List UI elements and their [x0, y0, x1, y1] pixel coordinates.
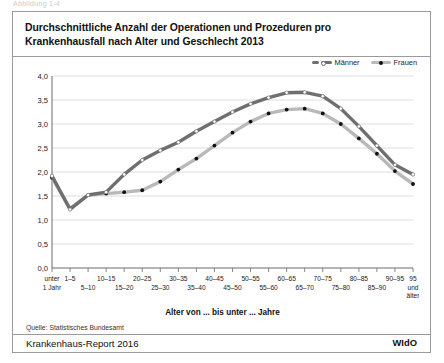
x-axis-tick-label: 90–95 — [386, 275, 405, 282]
plot-area: 0,00,51,01,52,02,53,03,54,0unter1 Jahr1–… — [25, 70, 419, 304]
data-point-frauen — [231, 131, 235, 135]
data-point-frauen — [411, 182, 415, 186]
y-axis-tick-label: 3,5 — [37, 96, 48, 105]
data-point-frauen — [357, 137, 361, 141]
data-point-männer — [50, 174, 53, 177]
y-axis-tick-label: 3,0 — [37, 120, 48, 129]
legend-swatch-maenner-icon — [312, 60, 332, 66]
x-axis-tick-label: 50–55 — [241, 275, 260, 282]
data-point-männer — [104, 190, 107, 193]
data-point-männer — [393, 163, 396, 166]
data-point-frauen — [393, 169, 397, 173]
data-point-frauen — [375, 152, 379, 156]
y-axis-tick-label: 2,0 — [37, 168, 48, 177]
data-point-frauen — [195, 157, 199, 161]
data-point-männer — [339, 107, 342, 110]
x-axis-tick-label: 20–25 — [133, 275, 152, 282]
data-point-frauen — [158, 180, 162, 184]
x-axis-tick-label: 65–70 — [296, 284, 315, 291]
x-axis-tick-label: 30–35 — [169, 275, 188, 282]
footer-divider — [13, 334, 430, 335]
x-axis-tick-label: 95 — [409, 275, 417, 282]
data-point-frauen — [249, 120, 253, 124]
y-axis-tick-label: 1,0 — [37, 216, 48, 225]
y-axis-tick-label: 2,5 — [37, 144, 48, 153]
x-axis-tick-label: unter — [44, 275, 60, 282]
data-point-männer — [68, 208, 71, 211]
data-point-frauen — [213, 144, 217, 148]
publisher-logo: WIdO — [393, 337, 417, 348]
legend-item-maenner[interactable]: Männer — [312, 58, 360, 67]
figure-frame: Durchschnittliche Anzahl der Operationen… — [12, 11, 431, 353]
legend-label-frauen: Frauen — [394, 58, 417, 67]
x-axis-tick-label: 5–10 — [81, 284, 96, 291]
data-point-männer — [86, 193, 89, 196]
y-axis-tick-label: 4,0 — [37, 72, 48, 81]
data-point-frauen — [285, 108, 289, 112]
title-line-2: Krankenhausfall nach Alter und Geschlech… — [25, 35, 418, 49]
figure-root: Abbildung 1-4 Durchschnittliche Anzahl d… — [0, 0, 444, 363]
legend-swatch-frauen-icon — [371, 60, 391, 66]
data-point-frauen — [303, 107, 307, 111]
data-point-frauen — [267, 112, 271, 116]
data-point-frauen — [339, 122, 343, 126]
data-point-männer — [123, 173, 126, 176]
data-point-frauen — [122, 190, 126, 194]
y-axis-tick-label: 0,5 — [37, 240, 48, 249]
x-axis-tick-label: 10–15 — [97, 275, 116, 282]
data-point-männer — [411, 173, 414, 176]
cutoff-caption: Abbildung 1-4 — [13, 0, 60, 7]
x-axis-tick-label: 35–40 — [187, 284, 206, 291]
title-line-1: Durchschnittliche Anzahl der Operationen… — [25, 21, 418, 35]
data-point-männer — [177, 141, 180, 144]
data-point-männer — [159, 149, 162, 152]
data-point-männer — [357, 125, 360, 128]
x-axis-tick-label: 40–45 — [205, 275, 224, 282]
x-axis-tick-label: 15–20 — [115, 284, 134, 291]
x-axis-tick-label: älter — [407, 292, 419, 299]
data-point-männer — [213, 120, 216, 123]
data-point-männer — [231, 110, 234, 113]
data-point-männer — [285, 91, 288, 94]
data-point-frauen — [176, 168, 180, 172]
x-axis-tick-label: 1–5 — [65, 275, 76, 282]
report-name: Krankenhaus-Report 2016 — [26, 338, 139, 349]
x-axis-tick-label: 85–90 — [368, 284, 387, 291]
line-chart: 0,00,51,01,52,02,53,03,54,0unter1 Jahr1–… — [25, 70, 419, 304]
x-axis-tick-label: 45–50 — [223, 284, 242, 291]
y-axis-tick-label: 1,5 — [37, 192, 48, 201]
y-axis-tick-label: 0,0 — [37, 264, 48, 273]
source-note: Quelle: Statistisches Bundesamt — [26, 324, 124, 331]
data-point-männer — [141, 158, 144, 161]
x-axis-tick-label: 70–75 — [314, 275, 333, 282]
x-axis-tick-label: 75–80 — [332, 284, 351, 291]
data-point-männer — [267, 96, 270, 99]
x-axis-title: Alter von ... bis unter ... Jahre — [13, 308, 432, 317]
data-point-männer — [321, 94, 324, 97]
data-point-frauen — [321, 112, 325, 116]
data-point-frauen — [140, 188, 144, 192]
x-axis-tick-label: 1 Jahr — [43, 284, 62, 291]
data-point-männer — [249, 102, 252, 105]
data-point-männer — [303, 91, 306, 94]
x-axis-tick-label: 80–85 — [350, 275, 369, 282]
x-axis-tick-label: 55–60 — [259, 284, 278, 291]
chart-legend: Männer Frauen — [312, 58, 417, 67]
data-point-männer — [195, 130, 198, 133]
legend-label-maenner: Männer — [335, 58, 360, 67]
legend-item-frauen[interactable]: Frauen — [371, 58, 417, 67]
figure-title: Durchschnittliche Anzahl der Operationen… — [13, 12, 430, 57]
x-axis-tick-label: und — [407, 284, 418, 291]
data-point-männer — [375, 144, 378, 147]
x-axis-tick-label: 25–30 — [151, 284, 170, 291]
x-axis-tick-label: 60–65 — [277, 275, 296, 282]
